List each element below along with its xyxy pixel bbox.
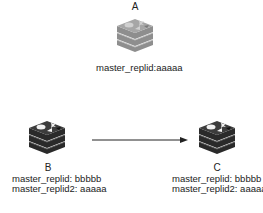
node-a-master-replid: master_replid:aaaaa <box>96 63 183 73</box>
node-a-label: A <box>125 2 145 12</box>
node-c-label: C <box>207 163 227 173</box>
replication-arrow-b-to-c <box>92 131 188 141</box>
node-b-label: B <box>38 163 58 173</box>
redis-stack-icon <box>114 14 156 54</box>
node-b-master-replid2: master_replid2: aaaaa <box>12 184 107 194</box>
redis-stack-icon <box>196 116 238 156</box>
node-c-master-replid2: master_replid2: aaaaa <box>172 184 263 194</box>
redis-stack-icon <box>26 116 68 156</box>
